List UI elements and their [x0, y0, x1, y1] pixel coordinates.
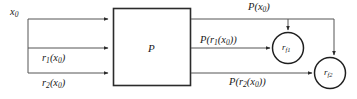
label-node-rf2: rf2	[324, 68, 333, 78]
label-input-r1-x0: r1(x0)	[42, 53, 65, 65]
label-node-rf1: rf1	[282, 43, 291, 53]
input-wires	[28, 19, 108, 73]
label-output-p-r2-x0: P(r2(x0))	[229, 77, 266, 89]
block-diagram-figure: x0 r1(x0) r2(x0) P P(x0) P(r1(x0)) P(r2(…	[0, 0, 357, 99]
label-input-x0: x0	[10, 7, 18, 19]
label-output-p-r1-x0: P(r1(x0))	[200, 35, 237, 47]
label-input-r2-x0: r2(x0)	[42, 78, 65, 90]
label-output-p-x0: P(x0)	[248, 2, 270, 14]
label-processing-block: P	[148, 43, 155, 54]
